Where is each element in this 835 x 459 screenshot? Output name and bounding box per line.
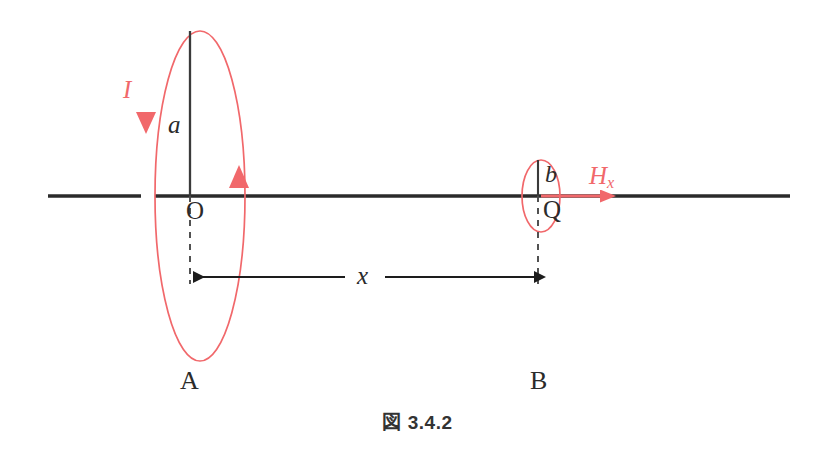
label-coil-a: A	[180, 368, 199, 394]
current-arrow-down-icon	[136, 112, 156, 134]
label-distance-x: x	[357, 263, 368, 288]
figure-caption: 図 3.4.2	[0, 407, 835, 434]
label-field-h-base: H	[589, 162, 607, 189]
label-field-hx: Hx	[589, 163, 614, 191]
label-center-o: O	[186, 198, 204, 223]
label-current-I: I	[123, 77, 131, 102]
label-point-q: Q	[543, 197, 561, 222]
label-coil-b: B	[530, 368, 547, 394]
physics-diagram-svg	[0, 0, 835, 459]
label-field-h-subscript: x	[607, 174, 614, 191]
label-radius-a: a	[168, 112, 181, 137]
current-arrow-up-icon	[229, 165, 249, 188]
figure-container: I a O x b Q A B Hx 図 3.4.2	[0, 0, 835, 459]
label-radius-b: b	[545, 162, 557, 186]
